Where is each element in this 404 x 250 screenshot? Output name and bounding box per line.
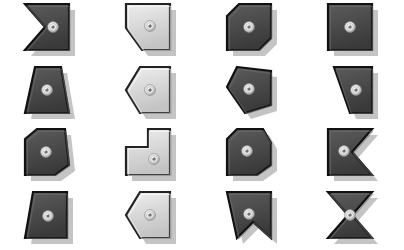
rivet-icon[interactable]: [344, 209, 355, 220]
rivet-icon[interactable]: [338, 146, 349, 157]
rivet-icon[interactable]: [241, 146, 252, 157]
rivet-icon[interactable]: [40, 147, 51, 158]
tile-hexagon-bevel-tr-bl-wide[interactable]: [21, 127, 81, 185]
tile-hexagon-bevel-tr-bl-alt[interactable]: [223, 127, 283, 185]
grid-cell-2-4: [303, 63, 404, 126]
rivet-icon[interactable]: [243, 208, 254, 219]
tile-trapezoid-slant-left-edge[interactable]: [324, 65, 384, 123]
tile-bowtie-hourglass[interactable]: [324, 190, 384, 248]
rivet-icon[interactable]: [47, 22, 58, 33]
tile-pentagon-point-left-alt[interactable]: [122, 190, 182, 248]
tile-pentagon-point-left[interactable]: [122, 65, 182, 123]
rivet-icon[interactable]: [42, 210, 53, 221]
tile-rect-bevel-bottom-left[interactable]: [122, 2, 182, 60]
rivet-icon[interactable]: [243, 83, 254, 94]
grid-cell-3-3: [202, 125, 303, 188]
rivet-icon[interactable]: [144, 84, 155, 95]
rivet-icon[interactable]: [144, 209, 155, 220]
rivet-icon[interactable]: [350, 84, 361, 95]
rivet-icon[interactable]: [144, 21, 155, 32]
grid-cell-3-1: [0, 125, 101, 188]
tile-trapezoid-slant-left[interactable]: [21, 190, 81, 248]
tile-pentagon-slant-left[interactable]: [223, 65, 283, 123]
shape-tile-grid: [0, 0, 404, 250]
tile-body[interactable]: [126, 129, 170, 175]
tile-square-plain[interactable]: [324, 2, 384, 60]
tile-chevron-notch-left[interactable]: [21, 2, 81, 60]
tile-trapezoid-narrow-top[interactable]: [21, 65, 81, 123]
grid-cell-4-1: [0, 188, 101, 250]
grid-cell-1-2: [101, 0, 202, 63]
grid-cell-2-3: [202, 63, 303, 126]
grid-cell-2-2: [101, 63, 202, 126]
tile-square-notch-bottom[interactable]: [223, 190, 283, 248]
grid-cell-2-1: [0, 63, 101, 126]
tile-l-shape-mirrored[interactable]: [122, 127, 182, 185]
grid-cell-1-3: [202, 0, 303, 63]
grid-cell-1-4: [303, 0, 404, 63]
grid-cell-3-2: [101, 125, 202, 188]
tile-chevron-notch-right[interactable]: [324, 127, 384, 185]
rivet-icon[interactable]: [344, 22, 355, 33]
rivet-icon[interactable]: [243, 22, 254, 33]
grid-cell-1-1: [0, 0, 101, 63]
grid-cell-4-4: [303, 188, 404, 250]
rivet-icon[interactable]: [41, 84, 52, 95]
grid-cell-4-3: [202, 188, 303, 250]
grid-cell-4-2: [101, 188, 202, 250]
rivet-icon[interactable]: [148, 154, 159, 165]
tile-hexagon-bevel-tr-bl[interactable]: [223, 2, 283, 60]
grid-cell-3-4: [303, 125, 404, 188]
